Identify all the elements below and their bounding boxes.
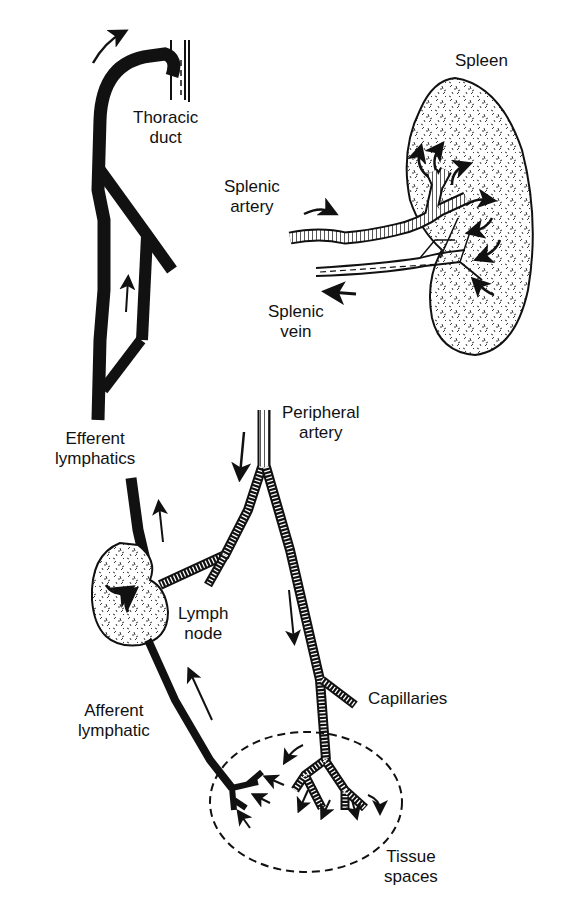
- thoracic-duct-branches: [100, 170, 172, 390]
- peripheral-artery: [160, 410, 326, 760]
- label-spleen: Spleen: [455, 51, 508, 71]
- label-lymph-node: Lymph node: [178, 604, 228, 644]
- label-thoracic-duct: Thoracic duct: [133, 108, 198, 148]
- label-splenic-artery: Splenic artery: [224, 177, 280, 217]
- label-efferent-lymphatics: Efferent lymphatics: [55, 429, 135, 469]
- label-capillaries: Capillaries: [368, 689, 447, 709]
- label-splenic-vein: Splenic vein: [268, 302, 324, 342]
- afferent-lymphatic: [148, 640, 262, 810]
- label-afferent-lymphatic: Afferent lymphatic: [78, 701, 150, 741]
- lymph-node: [92, 543, 168, 645]
- label-peripheral-artery: Peripheral artery: [282, 403, 360, 443]
- label-tissue-spaces: Tissue spaces: [384, 847, 438, 887]
- capillaries: [240, 680, 380, 828]
